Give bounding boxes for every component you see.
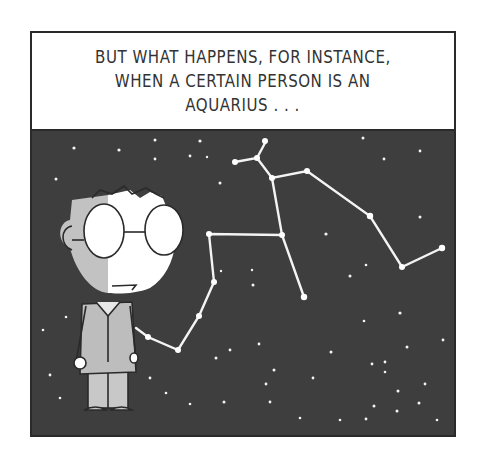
constellation-stars [145, 138, 445, 353]
boy-with-glasses [60, 186, 183, 410]
aquarius-constellation [136, 143, 442, 350]
night-sky-scene [0, 0, 482, 458]
